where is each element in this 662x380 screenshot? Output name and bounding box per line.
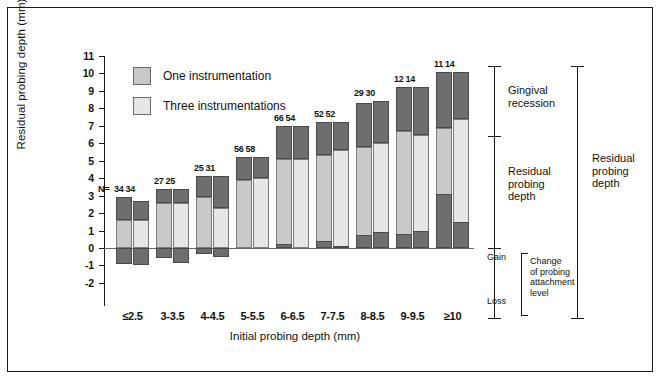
bar-segment-attachment-gain-three xyxy=(333,246,349,248)
bar-segment-residual-three xyxy=(213,208,229,248)
bar-n-label: 66 54 xyxy=(274,113,295,123)
y-tick-label: 3 xyxy=(68,190,94,202)
bar-segment-recession-three xyxy=(213,176,229,207)
annotation-residual-probing-depth-outer: Residual probing depth xyxy=(592,152,635,190)
bar-segment-residual-one xyxy=(316,155,332,248)
n-prefix-label: N= xyxy=(98,184,110,194)
bar-segment-recession-three xyxy=(453,72,469,119)
y-tick-label: -2 xyxy=(68,277,94,289)
y-tick-mark xyxy=(99,283,105,284)
bar-n-label: 11 14 xyxy=(434,59,455,69)
bar-segment-recession-one xyxy=(276,126,292,159)
bar-segment-recession-one xyxy=(396,87,412,131)
y-tick-label: 5 xyxy=(68,155,94,167)
x-axis-title: Initial probing depth (mm) xyxy=(150,330,440,342)
bar-segment-attachment-gain-three xyxy=(413,231,429,248)
bar-segment-recession-three xyxy=(333,122,349,150)
y-tick-mark xyxy=(99,178,105,179)
bar-segment-residual-one xyxy=(236,180,252,248)
bar-segment-attachment-gain-one xyxy=(316,241,332,248)
bar-segment-residual-one xyxy=(396,131,412,248)
bar-segment-residual-one xyxy=(356,147,372,248)
annotation-change-attachment: Change of probing attachment level xyxy=(530,256,575,298)
y-tick-label: 9 xyxy=(68,85,94,97)
bar-segment-recession-one xyxy=(196,176,212,197)
bar-segment-recession-one xyxy=(356,103,372,147)
bar-segment-residual-three xyxy=(173,203,189,248)
y-tick-mark xyxy=(99,213,105,214)
y-tick-mark xyxy=(99,56,105,57)
bar-segment-recession-one xyxy=(236,157,252,180)
bar-segment-recession-three xyxy=(133,201,149,220)
bar-segment-recession-three xyxy=(373,101,389,143)
bar-segment-residual-one xyxy=(276,159,292,248)
bar-segment-residual-three xyxy=(133,220,149,248)
y-tick-label: 6 xyxy=(68,137,94,149)
y-tick-label: 1 xyxy=(68,225,94,237)
bar-segment-residual-one xyxy=(196,197,212,248)
bar-segment-recession-one xyxy=(116,197,132,220)
annotation-loss: Loss xyxy=(487,296,506,307)
y-tick-mark xyxy=(99,196,105,197)
bar-segment-attachment-loss-three xyxy=(133,248,149,265)
legend-label-three: Three instrumentations xyxy=(163,99,286,113)
y-tick-label: 7 xyxy=(68,120,94,132)
annotation-gingival-recession: Gingival recession xyxy=(508,84,555,109)
bar-segment-recession-three xyxy=(253,157,269,178)
bar-segment-attachment-loss-one xyxy=(196,248,212,254)
legend-swatch-three-icon xyxy=(133,97,151,115)
bar-n-label: 56 58 xyxy=(234,144,255,154)
y-tick-label: -1 xyxy=(68,259,94,271)
y-tick-mark xyxy=(99,143,105,144)
bar-segment-attachment-gain-one xyxy=(356,235,372,248)
y-tick-label: 10 xyxy=(68,67,94,79)
bar-segment-residual-three xyxy=(333,150,349,248)
bar-segment-recession-three xyxy=(173,189,189,203)
y-tick-mark xyxy=(99,126,105,127)
bar-segment-attachment-loss-three xyxy=(173,248,189,263)
bar-segment-attachment-loss-one xyxy=(156,248,172,258)
bar-segment-residual-one xyxy=(116,220,132,248)
bar-segment-residual-one xyxy=(156,203,172,248)
y-tick-label: 4 xyxy=(68,172,94,184)
bar-segment-attachment-gain-one xyxy=(436,194,452,248)
chart-page: Residual probing depth (mm) 111098765432… xyxy=(0,0,662,380)
bar-n-label: 25 31 xyxy=(194,163,215,173)
bar-n-label: 29 30 xyxy=(354,88,375,98)
bar-segment-attachment-gain-three xyxy=(373,232,389,248)
bar-n-label: 12 14 xyxy=(394,74,415,84)
bar-segment-attachment-loss-three xyxy=(213,248,229,257)
y-tick-label: 0 xyxy=(68,242,94,254)
bar-n-label: 27 25 xyxy=(154,176,175,186)
annotation-gain: Gain xyxy=(487,252,506,263)
y-axis-title: Residual probing depth (mm) xyxy=(15,0,27,159)
bar-segment-recession-three xyxy=(413,87,429,134)
y-axis-line xyxy=(104,56,105,306)
y-tick-label: 2 xyxy=(68,207,94,219)
bar-segment-recession-one xyxy=(436,72,452,128)
y-tick-mark xyxy=(99,108,105,109)
y-tick-mark xyxy=(99,265,105,266)
y-tick-label: 8 xyxy=(68,102,94,114)
bar-segment-attachment-gain-one xyxy=(276,244,292,248)
y-tick-mark xyxy=(99,161,105,162)
legend-swatch-one-icon xyxy=(133,67,151,85)
annotation-residual-probing-depth-inner: Residual probing depth xyxy=(508,165,551,203)
y-tick-label: 11 xyxy=(68,50,94,62)
y-tick-mark xyxy=(99,231,105,232)
bar-segment-residual-three xyxy=(293,159,309,248)
bar-n-label: 34 34 xyxy=(114,184,135,194)
x-tick-label: ≥10 xyxy=(427,310,478,322)
y-tick-mark xyxy=(99,91,105,92)
bar-segment-recession-one xyxy=(316,122,332,155)
bar-segment-recession-one xyxy=(156,189,172,203)
bar-segment-attachment-loss-one xyxy=(116,248,132,264)
y-tick-mark xyxy=(99,73,105,74)
bar-n-label: 52 52 xyxy=(314,109,335,119)
bar-segment-attachment-gain-one xyxy=(396,234,412,248)
bar-segment-residual-three xyxy=(253,178,269,248)
legend-label-one: One instrumentation xyxy=(163,69,271,83)
bar-segment-recession-three xyxy=(293,126,309,159)
bar-segment-attachment-gain-three xyxy=(453,222,469,248)
